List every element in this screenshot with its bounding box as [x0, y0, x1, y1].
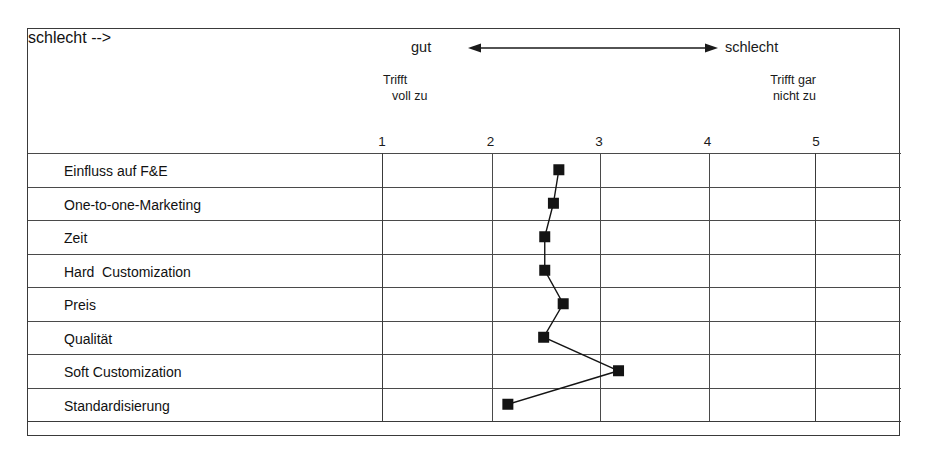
category-label: Preis: [64, 296, 96, 314]
scale-bad-label: schlecht: [725, 38, 778, 56]
anchor-label-low-line2: voll zu: [383, 88, 427, 104]
category-label: One-to-one-Marketing: [64, 196, 201, 214]
category-label: Hard Customization: [64, 263, 191, 281]
category-label: Standardisierung: [64, 397, 170, 415]
scale-good-label: gut: [411, 38, 431, 56]
category-label: Einfluss auf F&E: [64, 162, 168, 180]
scale-direction-row: gut schlecht: [28, 34, 901, 62]
chart-plot-area: Einfluss auf F&EOne-to-one-MarketingZeit…: [28, 153, 901, 421]
vertical-gridline: [709, 153, 710, 421]
category-label: Soft Customization: [64, 363, 182, 381]
category-label: Qualität: [64, 330, 112, 348]
x-tick-label: 3: [589, 134, 609, 150]
x-tick-label: 5: [806, 134, 826, 150]
anchor-label-high: Trifft gar nicht zu: [688, 72, 816, 104]
chart-figure-frame: schlecht --> gut schlecht Trifft voll zu…: [27, 28, 900, 436]
anchor-label-high-line2: nicht zu: [688, 88, 816, 104]
x-tick-label: 1: [372, 134, 392, 150]
x-axis-tick-labels: 12345: [28, 134, 901, 152]
anchor-label-high-line1: Trifft gar: [688, 72, 816, 88]
category-label: Zeit: [64, 229, 87, 247]
x-tick-label: 2: [481, 134, 501, 150]
vertical-gridline: [492, 153, 493, 421]
vertical-gridline: [600, 153, 601, 421]
rows-bottom-border: [28, 421, 901, 422]
double-headed-arrow-icon: [468, 40, 718, 56]
anchor-label-low: Trifft voll zu: [383, 72, 427, 104]
x-tick-label: 4: [698, 134, 718, 150]
plot-box-border: [382, 153, 816, 421]
anchor-label-low-line1: Trifft: [383, 72, 427, 88]
